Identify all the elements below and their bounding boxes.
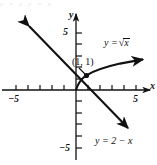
intersection-point-label: (1, 1) bbox=[72, 57, 94, 67]
curve-equation-label: y =√x bbox=[104, 38, 129, 48]
y-tick-label-5: 5 bbox=[63, 27, 68, 37]
point-leader-line bbox=[79, 68, 85, 74]
x-tick-label-minus-5: −5 bbox=[8, 94, 19, 104]
coordinate-plane-figure: y = x y = x bbox=[0, 0, 157, 165]
y-axis-label: y bbox=[69, 10, 73, 20]
curve-equation-lhs: y = bbox=[104, 37, 118, 48]
x-axis-label: x bbox=[150, 81, 155, 91]
line-equation-label: y = 2 − x bbox=[95, 136, 132, 146]
y-tick-label-minus-5: −5 bbox=[59, 143, 70, 153]
radical-sign: √x bbox=[118, 38, 129, 48]
x-tick-label-5: 5 bbox=[133, 94, 138, 104]
graph-canvas bbox=[0, 0, 157, 165]
